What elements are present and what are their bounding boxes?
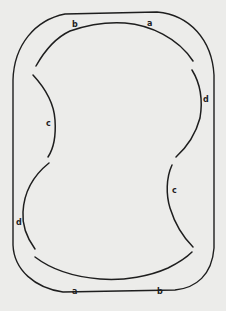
label-right-c: c (172, 186, 177, 195)
label-bottom-b: b (157, 287, 163, 296)
segment-right-c (167, 165, 193, 247)
label-left-d: d (16, 218, 22, 227)
label-left-c: c (46, 119, 51, 128)
label-right-d: d (203, 95, 209, 104)
label-top-b: b (72, 20, 78, 29)
segment-left-c (33, 75, 55, 157)
segment-top-b-a (36, 23, 193, 66)
segment-left-d (23, 163, 49, 249)
label-bottom-a: a (72, 287, 77, 296)
segment-bottom-a-b (35, 252, 192, 279)
track-diagram: b a d c c d a b (0, 0, 226, 311)
label-top-a: a (147, 19, 152, 28)
segment-right-d (176, 70, 201, 157)
